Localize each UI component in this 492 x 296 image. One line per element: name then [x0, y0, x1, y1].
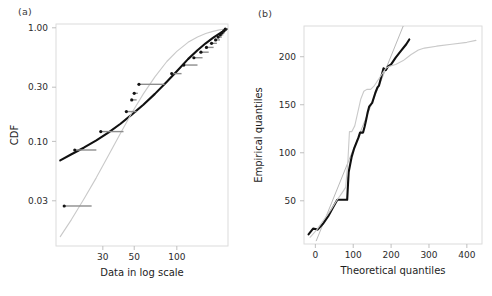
- panel-a-plot: 0.030.100.301.003050100Data in log scale…: [0, 0, 246, 296]
- y-axis-title: Empirical quantiles: [253, 87, 264, 183]
- panel-b-label: (b): [258, 8, 272, 19]
- y-tick-label: 0.30: [28, 82, 48, 92]
- x-tick-label: 300: [420, 250, 437, 260]
- step-point-marker: [170, 72, 173, 75]
- y-tick-label: 50: [285, 196, 297, 206]
- x-tick-label: 100: [168, 252, 185, 262]
- step-point-marker: [125, 110, 128, 113]
- y-tick-label: 1.00: [28, 23, 48, 33]
- x-tick-label: 400: [458, 250, 475, 260]
- panel-a: (a) 0.030.100.301.003050100Data in log s…: [0, 0, 246, 296]
- x-tick-label: 0: [312, 250, 318, 260]
- step-point-marker: [214, 38, 217, 41]
- axis-ticks: 501001502000100200300400: [279, 52, 476, 260]
- step-point-marker: [205, 46, 208, 49]
- x-tick-label: 100: [345, 250, 362, 260]
- x-axis-title: Theoretical quantiles: [339, 265, 445, 276]
- y-tick-label: 0.03: [28, 196, 48, 206]
- step-point-marker: [63, 204, 66, 207]
- axis-ticks: 0.030.100.301.003050100: [28, 23, 186, 262]
- panel-b: (b) 501001502000100200300400Theoretical …: [246, 0, 492, 296]
- x-tick-label: 50: [128, 252, 140, 262]
- panel-a-label: (a): [18, 6, 32, 17]
- step-point-marker: [137, 83, 140, 86]
- y-tick-label: 200: [279, 52, 296, 62]
- x-axis-title: Data in log scale: [100, 267, 184, 278]
- figure-root: (a) 0.030.100.301.003050100Data in log s…: [0, 0, 492, 296]
- y-tick-label: 150: [279, 100, 296, 110]
- step-point-marker: [130, 98, 133, 101]
- y-tick-label: 100: [279, 148, 296, 158]
- x-tick-label: 30: [97, 252, 109, 262]
- empirical-step-points: [63, 28, 227, 208]
- y-axis-title: CDF: [9, 125, 20, 146]
- qq-empirical-dark: [309, 39, 410, 234]
- panel-b-plot: 501001502000100200300400Theoretical quan…: [246, 0, 492, 296]
- x-tick-label: 200: [383, 250, 400, 260]
- qq-model-light: [310, 40, 476, 237]
- y-tick-label: 0.10: [28, 137, 48, 147]
- step-point-marker: [199, 51, 202, 54]
- step-point-marker: [192, 56, 195, 59]
- step-point-marker: [210, 42, 213, 45]
- step-point-marker: [73, 148, 76, 151]
- step-point-marker: [224, 28, 227, 31]
- step-point-marker: [133, 92, 136, 95]
- step-point-marker: [99, 130, 102, 133]
- step-point-marker: [182, 63, 185, 66]
